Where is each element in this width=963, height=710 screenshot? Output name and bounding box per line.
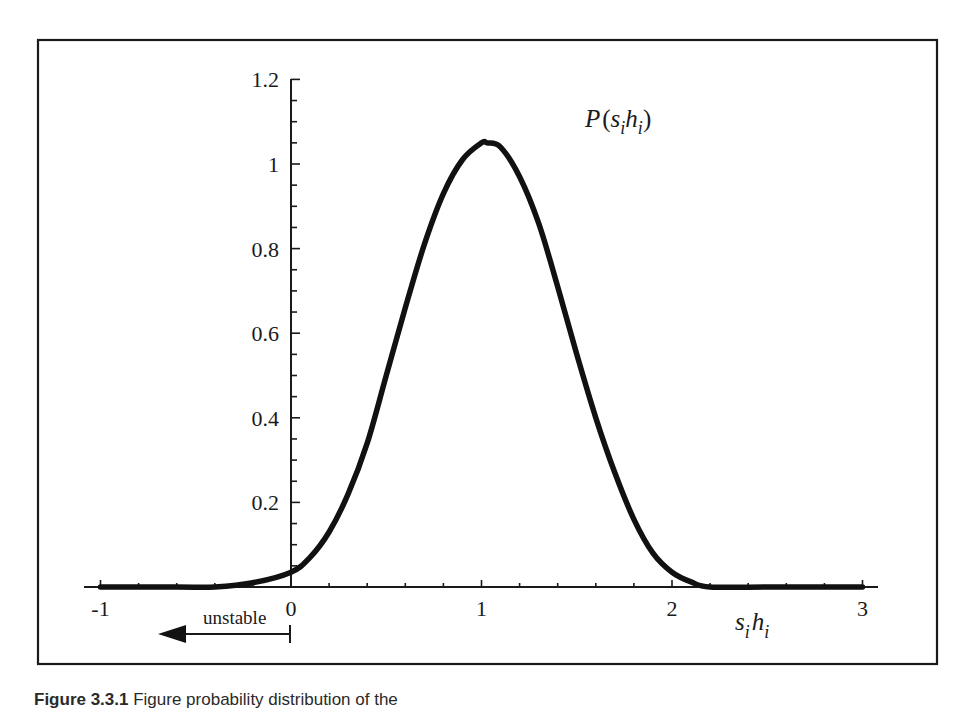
curve-label-p: P — [584, 105, 600, 132]
figure-caption: Figure 3.3.1 Figure probability distribu… — [34, 690, 398, 710]
y-tick-label: 0.6 — [252, 321, 280, 346]
caption-figure-number: Figure 3.3.1 — [34, 690, 128, 709]
y-axis-ticks — [291, 79, 300, 565]
unstable-label: unstable — [203, 607, 266, 628]
unstable-annotation: unstable — [158, 607, 291, 643]
x-tick-label: 3 — [857, 596, 868, 621]
x-tick-label: 1 — [476, 596, 487, 621]
figure-frame — [38, 40, 937, 664]
y-tick-label: 1.2 — [252, 67, 280, 92]
y-tick-label: 0.2 — [252, 490, 280, 515]
x-tick-label: 0 — [286, 596, 297, 621]
x-axis-label: sihi — [735, 608, 769, 642]
arrow-left-icon — [158, 625, 186, 643]
y-tick-label: 0.4 — [252, 406, 280, 431]
y-axis-tick-labels: 0.20.40.60.811.2 — [252, 67, 280, 515]
y-tick-label: 1 — [268, 152, 279, 177]
axes: -10123 0.20.40.60.811.2 — [84, 67, 878, 621]
probability-curve — [101, 141, 863, 587]
caption-text: Figure probability distribution of the — [128, 690, 397, 709]
x-tick-label: 2 — [667, 596, 678, 621]
y-tick-label: 0.8 — [252, 237, 280, 262]
curve-label: P(sihi) — [584, 105, 651, 138]
x-tick-label: -1 — [91, 596, 109, 621]
